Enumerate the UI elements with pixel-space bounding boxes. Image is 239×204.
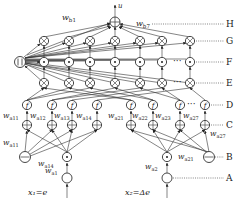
weight-wa11: wa11 bbox=[3, 111, 19, 121]
row-label-h: H bbox=[226, 19, 234, 29]
row-label-b: B bbox=[226, 152, 233, 162]
row-label-c: C bbox=[226, 120, 233, 130]
weight-wa13: wa13 bbox=[54, 111, 70, 121]
input-label-x1: x₁=e bbox=[28, 188, 47, 197]
layer-c-sum-nodes bbox=[22, 120, 209, 129]
input-label-x2: x₂=Δe bbox=[125, 188, 150, 197]
weight-wa12: wa12 bbox=[30, 111, 46, 121]
weight-wa23: wa23 bbox=[155, 111, 171, 121]
weight-wb7: wb7 bbox=[136, 19, 150, 29]
svg-text:···: ··· bbox=[187, 99, 196, 109]
svg-text:···: ··· bbox=[173, 77, 182, 87]
row-label-a: A bbox=[225, 173, 233, 183]
row-labels: H G F E D C B A bbox=[225, 19, 234, 183]
layer-d-function-nodes: f f f f f f f f bbox=[22, 100, 209, 110]
row-label-e: E bbox=[226, 78, 233, 88]
edges-d-e bbox=[27, 88, 205, 100]
fuzzy-neural-network-diagram: f f f f f f f f ··· ··· ··· u wb1 wb bbox=[0, 0, 239, 204]
weight-wa21: wa21 bbox=[108, 111, 124, 121]
weight-wa11-bias: wa11 bbox=[3, 138, 19, 148]
weight-wb1: wb1 bbox=[62, 13, 76, 23]
pi-normalization-node bbox=[15, 57, 26, 68]
dot-node-right bbox=[162, 152, 171, 161]
bias-minus-node-left bbox=[20, 152, 31, 163]
weight-wa14: wa14 bbox=[76, 111, 92, 121]
layer-e-product-nodes bbox=[39, 78, 194, 87]
row-label-f: F bbox=[226, 57, 232, 67]
row-label-g: G bbox=[226, 36, 233, 46]
edges-g-h bbox=[27, 5, 190, 55]
weight-wa22: wa22 bbox=[132, 111, 148, 121]
row-label-d: D bbox=[226, 100, 233, 110]
layer-h-output-node bbox=[110, 17, 120, 27]
layer-a-input-nodes bbox=[62, 173, 172, 183]
weight-wa27-bias: wa27 bbox=[210, 129, 226, 139]
weight-wa2: wa2 bbox=[145, 162, 158, 172]
dot-node-left bbox=[62, 152, 71, 161]
weight-wa27: wa27 bbox=[183, 111, 199, 121]
output-label: u bbox=[118, 2, 123, 10]
weight-wa1: wa1 bbox=[45, 166, 58, 176]
weight-wa21-bias: wa21 bbox=[178, 152, 194, 162]
bias-minus-node-right bbox=[204, 152, 215, 163]
svg-text:···: ··· bbox=[173, 56, 182, 66]
